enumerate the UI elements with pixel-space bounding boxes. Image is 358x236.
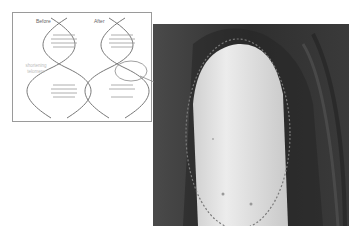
finger-illustration	[153, 24, 349, 226]
after-helix-icon	[85, 18, 149, 118]
label-note: shortening telomere	[19, 63, 53, 75]
fingertip	[193, 44, 288, 226]
dna-inset-diagram: Before After shortening telomere	[12, 12, 152, 122]
finger-photo	[153, 24, 349, 226]
label-after: After	[94, 18, 105, 24]
label-before: Before	[36, 18, 51, 24]
leader-line	[140, 74, 156, 84]
